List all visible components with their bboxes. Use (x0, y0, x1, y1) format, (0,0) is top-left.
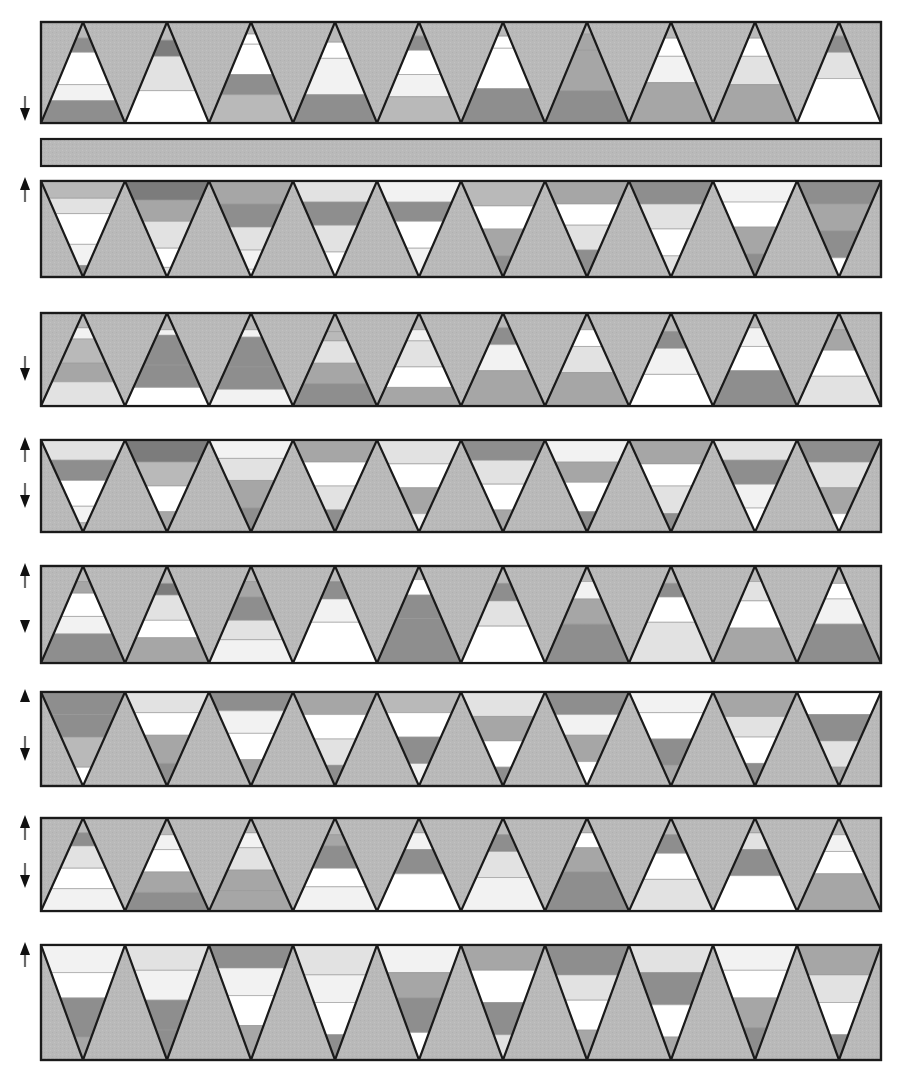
triangle-layer (209, 95, 293, 123)
triangle-layer (293, 887, 377, 911)
triangle-layer (217, 711, 284, 734)
triangle-layer (41, 440, 125, 460)
triangle-layer (125, 945, 209, 970)
band-3 (41, 313, 881, 406)
triangle-layer (377, 692, 461, 713)
triangle-layer (377, 945, 461, 973)
triangle-layer (545, 181, 629, 204)
triangle-layer (293, 384, 377, 406)
triangle-layer (797, 440, 881, 462)
triangle-layer (125, 692, 209, 713)
triangle-layer (797, 692, 881, 715)
band-8 (41, 945, 881, 1060)
triangle-layer (209, 891, 293, 911)
triangle-layer (209, 389, 293, 406)
triangle-layer (629, 945, 713, 973)
triangle-layer (50, 460, 116, 480)
triangle-layer (136, 620, 198, 637)
triangle-layer (629, 440, 713, 464)
triangle-layer (555, 462, 619, 482)
triangle-layer (209, 945, 293, 968)
band-1 (41, 22, 881, 123)
triangle-layer (133, 872, 200, 892)
triangle-layer (303, 363, 367, 383)
triangle-layer (41, 382, 125, 406)
triangle-layer (713, 440, 797, 460)
triangle-layer (54, 616, 113, 633)
triangle-layer (125, 387, 209, 406)
triangle-layer (385, 367, 452, 387)
triangle-layer (125, 892, 209, 911)
triangle-layer (41, 101, 125, 123)
triangle-layer (555, 715, 619, 736)
triangle-layer (461, 440, 545, 460)
triangle-layer (221, 75, 281, 95)
band-matrix (41, 139, 881, 166)
triangle-layer (556, 975, 618, 1000)
band-6 (41, 692, 881, 786)
triangle-layer (133, 200, 200, 221)
figure-root (0, 0, 908, 1082)
triangle-layer (217, 367, 286, 389)
triangle-layer (461, 181, 545, 206)
triangle-layer (302, 202, 368, 225)
triangle-layer (386, 202, 452, 221)
triangle-layer (219, 620, 283, 639)
triangle-layer (125, 181, 209, 200)
spacer-band (41, 139, 881, 166)
triangle-layer (125, 440, 209, 462)
triangle-layer (722, 970, 788, 998)
triangle-layer (377, 440, 461, 464)
triangle-layer (388, 75, 450, 97)
triangle-layer (713, 181, 797, 202)
triangle-layer (797, 945, 881, 975)
triangle-layer (41, 692, 125, 715)
triangle-layer (41, 181, 125, 198)
triangle-layer (209, 692, 293, 711)
band-2 (41, 181, 881, 277)
triangle-layer (217, 968, 284, 996)
triangle-layer (797, 181, 881, 204)
triangle-layer (724, 716, 786, 737)
triangle-layer (377, 387, 461, 406)
triangle-layer (293, 95, 377, 123)
triangle-layer (545, 945, 629, 975)
triangle-layer (41, 945, 125, 973)
triangle-layer (545, 692, 629, 715)
triangle-layer (377, 97, 461, 123)
triangle-layer (50, 85, 116, 101)
triangle-layer (293, 945, 377, 975)
triangle-layer (713, 945, 797, 970)
triangle-layer (304, 868, 366, 887)
triangle-layer (461, 945, 545, 970)
triangle-layer (41, 889, 125, 911)
triangle-layer (209, 440, 293, 458)
triangle-layer (555, 204, 619, 225)
triangle-layer (52, 363, 114, 382)
triangle-layer (217, 458, 284, 480)
triangle-layer (218, 870, 284, 890)
triangle-layer (125, 638, 209, 663)
triangle-layer (51, 868, 115, 888)
triangle-layer (134, 713, 200, 736)
triangle-layer (209, 181, 293, 204)
band-5 (41, 566, 881, 663)
triangle-layer (209, 640, 293, 663)
triangle-layer (293, 692, 377, 715)
triangle-layer (293, 440, 377, 462)
triangular-band-diagram (0, 0, 908, 1082)
triangle-layer (51, 973, 115, 998)
band-7 (41, 818, 881, 911)
triangle-layer (133, 365, 200, 387)
triangle-layer (713, 692, 797, 716)
triangle-layer (629, 692, 713, 713)
band-4 (41, 440, 881, 532)
triangle-layer (41, 634, 125, 663)
triangle-layer (49, 198, 118, 213)
triangle-layer (545, 440, 629, 462)
triangle-layer (461, 692, 545, 716)
triangle-layer (629, 181, 713, 204)
triangle-layer (387, 973, 451, 998)
triangle-layer (293, 181, 377, 202)
triangle-layer (377, 181, 461, 202)
